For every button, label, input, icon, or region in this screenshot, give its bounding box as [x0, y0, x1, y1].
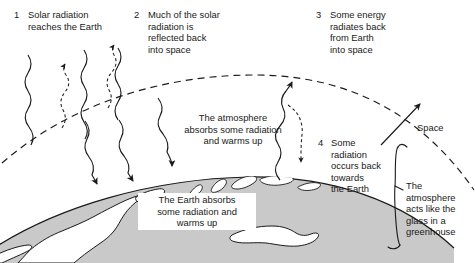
- space-label: Space: [417, 122, 444, 134]
- greenhouse-brace-label: The atmosphere acts like the glass in a …: [406, 180, 456, 238]
- step-2-text: Much of the solar radiation is reflected…: [148, 9, 220, 55]
- greenhouse-effect-diagram: 1 Solar radiation reaches the Earth 2 Mu…: [0, 0, 475, 263]
- brace-tip: [395, 186, 403, 190]
- step-2-number: 2: [134, 9, 139, 21]
- atmosphere-absorbs-label: The atmosphere absorbs some radiation an…: [153, 112, 313, 147]
- step-3-text: Some energy radiates back from Earth int…: [330, 9, 386, 55]
- step-4-number: 4: [318, 137, 323, 149]
- step-4-text: Some radiation occurs back towards the E…: [331, 137, 381, 195]
- reflected-ray-1: [61, 64, 69, 128]
- earth-absorbs-label: The Earth absorbs some radiation and war…: [138, 193, 256, 230]
- step-3-number: 3: [316, 9, 321, 21]
- incoming-solar-radiation-rays: [25, 48, 172, 184]
- incoming-ray-2: [81, 50, 87, 139]
- space-arrow: [381, 104, 420, 145]
- brace-top-hook: [398, 144, 407, 147]
- reflected-radiation-rays: [61, 45, 116, 128]
- incoming-ray-3-lower: [119, 120, 133, 181]
- step-1-text: Solar radiation reaches the Earth: [28, 9, 102, 32]
- step-1-number: 1: [14, 9, 19, 21]
- incoming-ray-1: [25, 55, 33, 145]
